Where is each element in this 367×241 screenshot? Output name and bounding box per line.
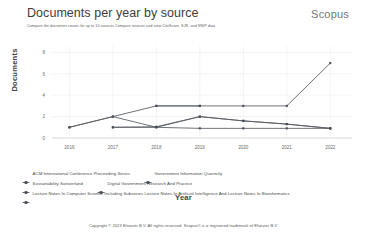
- legend-item-label: Lecture Notes In Computer Science Includ…: [33, 191, 290, 197]
- y-axis-tick-label: 0: [42, 136, 45, 141]
- data-point-marker: [199, 116, 201, 118]
- legend-item[interactable]: Digital Government Research And Practice: [97, 181, 192, 189]
- x-axis-tick-label: 2020: [238, 145, 249, 150]
- data-point-marker: [286, 105, 288, 107]
- x-axis-tick-label: 2017: [108, 145, 119, 150]
- y-axis-tick-label: 6: [42, 72, 45, 77]
- y-axis-tick-label: 2: [42, 114, 45, 119]
- data-point-marker: [112, 116, 114, 118]
- page-header: Documents per year by source Scopus Comp…: [0, 0, 367, 36]
- data-point-marker: [68, 126, 70, 128]
- data-point-marker: [199, 105, 201, 107]
- x-axis-tick-label: 2018: [151, 145, 162, 150]
- scopus-brand-label: Scopus: [311, 8, 349, 20]
- legend-item[interactable]: Government Information Quarterly: [144, 171, 222, 179]
- line-chart: 024682016201720182019202020212022: [0, 38, 367, 163]
- page-subtitle: Compare the document counts for up to 10…: [27, 24, 215, 28]
- legend-row: ACM International Conference Proceeding …: [22, 171, 352, 179]
- data-point-marker: [242, 105, 244, 107]
- page-title: Documents per year by source: [27, 6, 199, 20]
- line-marker-icon: [22, 182, 30, 189]
- data-point-marker: [155, 126, 157, 128]
- legend-item-label: Government Information Quarterly: [155, 171, 223, 177]
- line-marker-icon: [22, 172, 30, 179]
- series-line-3: [113, 117, 330, 129]
- chart-legend: ACM International Conference Proceeding …: [22, 171, 352, 201]
- line-marker-icon: [144, 172, 152, 179]
- x-axis-tick-label: 2021: [282, 145, 293, 150]
- legend-row: Sustainability SwitzerlandDigital Govern…: [22, 181, 352, 189]
- data-point-marker: [112, 126, 114, 128]
- data-point-marker: [329, 127, 331, 129]
- legend-item[interactable]: ACM International Conference Proceeding …: [22, 171, 130, 179]
- y-axis-tick-label: 4: [42, 93, 45, 98]
- data-point-marker: [329, 62, 331, 64]
- data-point-marker: [155, 105, 157, 107]
- x-axis-tick-label: 2022: [325, 145, 336, 150]
- data-point-marker: [242, 127, 244, 129]
- x-axis-tick-label: 2016: [64, 145, 75, 150]
- data-point-marker: [199, 127, 201, 129]
- y-axis-tick-label: 8: [42, 50, 45, 55]
- legend-item-label: Sustainability Switzerland: [33, 181, 84, 187]
- legend-row: Lecture Notes In Computer Science Includ…: [22, 191, 352, 199]
- legend-item[interactable]: Sustainability Switzerland: [22, 181, 83, 189]
- chart-container: Documents 024682016201720182019202020212…: [0, 38, 367, 163]
- legend-item[interactable]: Lecture Notes In Computer Science Includ…: [22, 191, 290, 199]
- legend-item-label: Digital Government Research And Practice: [108, 181, 193, 187]
- scopus-documents-per-year-page: Documents per year by source Scopus Comp…: [0, 0, 367, 241]
- line-marker-icon: [22, 192, 30, 199]
- line-marker-icon: [97, 182, 105, 189]
- data-point-marker: [286, 127, 288, 129]
- data-point-marker: [242, 120, 244, 122]
- data-point-marker: [286, 123, 288, 125]
- copyright-footer: Copyright © 2023 Elsevier B.V. All right…: [0, 223, 367, 228]
- x-axis-tick-label: 2019: [195, 145, 206, 150]
- series-line-2: [113, 127, 330, 128]
- legend-item-label: ACM International Conference Proceeding …: [33, 171, 131, 177]
